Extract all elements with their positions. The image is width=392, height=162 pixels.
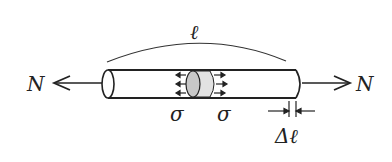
- stress-arrows-right: [214, 73, 227, 96]
- length-arc: [107, 43, 286, 62]
- elongation-label: Δℓ: [275, 126, 298, 146]
- right-force-arrow: [302, 76, 350, 90]
- stress-arrows-left: [176, 73, 186, 96]
- length-label: ℓ: [190, 22, 198, 42]
- force-left-label: N: [27, 74, 45, 94]
- stress-right-label: σ: [217, 104, 231, 124]
- cut-element: [186, 71, 214, 97]
- force-right-label: N: [356, 74, 374, 94]
- left-force-arrow: [54, 76, 104, 90]
- stress-left-label: σ: [170, 104, 184, 124]
- elongation-marker: [268, 101, 315, 117]
- tension-bar-diagram: ℓ N N σ σ Δℓ: [0, 0, 392, 162]
